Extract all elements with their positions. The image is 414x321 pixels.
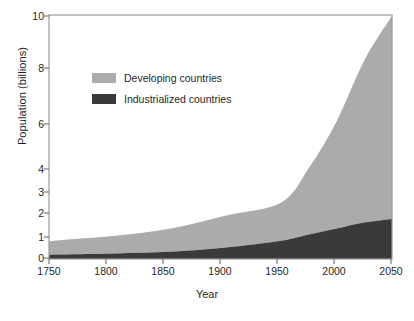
population-area-chart: Population (billions) 10 8 6 4 3 2 1 0 1… <box>0 0 414 321</box>
legend-swatch-developing <box>92 73 116 83</box>
x-tick-marks <box>49 259 391 264</box>
y-tick-marks <box>44 16 49 258</box>
legend-label-developing: Developing countries <box>124 72 222 84</box>
plot-canvas <box>0 0 414 321</box>
legend-label-industrialized: Industrialized countries <box>124 93 231 105</box>
legend-swatch-industrialized <box>92 94 116 104</box>
